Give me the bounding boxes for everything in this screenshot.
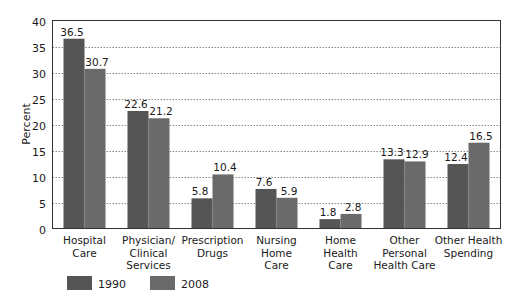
value-label: 5.8: [192, 185, 209, 197]
value-label: 5.9: [281, 185, 298, 197]
bar-2008: [213, 174, 234, 228]
y-tick-label: 35: [32, 42, 46, 55]
value-label: 36.5: [60, 26, 83, 38]
y-tick-label: 15: [32, 146, 46, 159]
legend: 19902008: [67, 276, 209, 291]
value-label: 13.3: [380, 146, 403, 158]
category-label: HospitalCare: [63, 234, 106, 259]
value-label: 16.5: [469, 130, 492, 142]
y-tick-label: 10: [32, 172, 46, 185]
value-label: 7.6: [256, 176, 273, 188]
value-label: 21.2: [149, 105, 172, 117]
bar-1990: [320, 219, 341, 228]
bar-1990: [448, 164, 469, 228]
y-tick-label: 20: [32, 120, 46, 133]
value-label: 22.6: [124, 98, 148, 110]
value-label: 1.8: [320, 206, 337, 218]
bar-1990: [192, 198, 213, 228]
y-tick-label: 40: [32, 16, 46, 29]
y-axis-ticks: 0510152025303540: [32, 16, 46, 237]
bar-2008: [341, 214, 362, 229]
category-label: HomeHealthCare: [323, 234, 357, 271]
value-label: 2.8: [345, 201, 362, 213]
legend-swatch-2008: [150, 276, 175, 290]
bar-2008: [469, 143, 490, 229]
legend-label: 1990: [98, 278, 126, 291]
category-label: NursingHomeCare: [256, 234, 297, 271]
bar-2008: [277, 198, 298, 229]
bar-2008: [149, 118, 170, 228]
category-label: Physician/ClinicalServices: [122, 234, 175, 271]
bar-chart: 0510152025303540 Percent 36.530.722.621.…: [0, 0, 517, 305]
value-label: 12.4: [444, 151, 468, 163]
legend-label: 2008: [181, 278, 209, 291]
category-label: Other HealthSpending: [435, 234, 503, 259]
y-tick-label: 30: [32, 68, 46, 81]
value-label: 10.4: [213, 161, 237, 173]
category-labels: HospitalCarePhysician/ClinicalServicesPr…: [63, 234, 502, 271]
gridlines: [53, 48, 501, 204]
y-tick-label: 0: [39, 224, 46, 237]
y-axis-label: Percent: [20, 103, 33, 145]
value-label: 30.7: [85, 56, 108, 68]
bar-2008: [85, 69, 106, 229]
bar-1990: [384, 159, 405, 228]
value-label: 12.9: [405, 148, 428, 160]
bar-1990: [64, 39, 85, 229]
legend-swatch-1990: [67, 276, 92, 290]
y-tick-label: 5: [39, 198, 46, 211]
y-tick-label: 25: [32, 94, 46, 107]
bar-1990: [128, 111, 149, 229]
category-label: OtherPersonalHealth Care: [373, 234, 435, 271]
bar-2008: [405, 161, 426, 228]
bars: 36.530.722.621.25.810.47.65.91.82.813.31…: [60, 26, 492, 229]
category-label: PrescriptionDrugs: [182, 234, 244, 259]
bar-1990: [256, 189, 277, 229]
